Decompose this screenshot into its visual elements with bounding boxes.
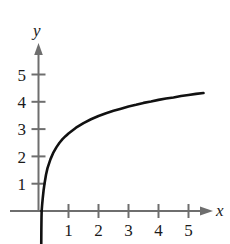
data-curve — [42, 93, 204, 211]
x-tick-label-2: 2 — [91, 222, 107, 239]
x-tick-label-5: 5 — [181, 222, 197, 239]
y-tick-label-4: 4 — [10, 94, 26, 111]
x-tick-label-4: 4 — [151, 222, 167, 239]
y-tick-label-5: 5 — [10, 67, 26, 84]
x-tick-label-1: 1 — [61, 222, 77, 239]
x-axis-label: x — [216, 202, 224, 219]
y-axis-label: y — [33, 22, 41, 39]
y-tick-label-3: 3 — [10, 121, 26, 138]
x-axis-arrowhead — [200, 206, 213, 215]
y-tick-label-2: 2 — [10, 149, 26, 166]
x-tick-label-3: 3 — [121, 222, 137, 239]
y-tick-label-1: 1 — [10, 176, 26, 193]
y-axis-arrowhead — [34, 43, 43, 55]
chart-figure: 5 4 3 2 1 1 2 3 4 5 y x — [0, 0, 230, 244]
